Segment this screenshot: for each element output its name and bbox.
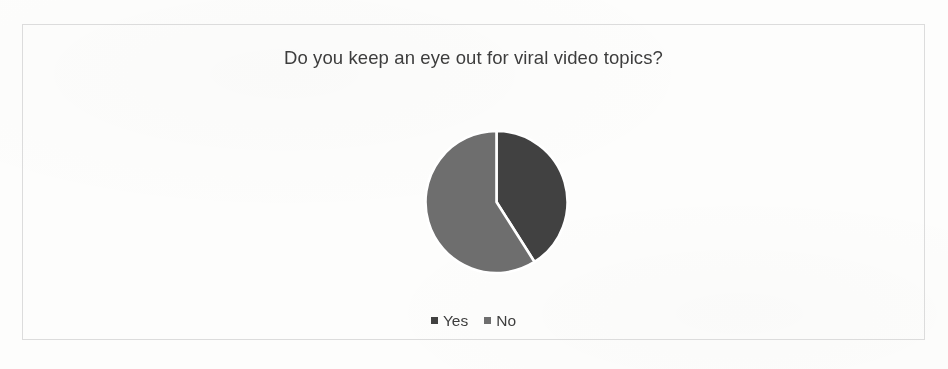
legend-swatch-no-icon [484,317,491,324]
pie-chart-plot-area [403,107,591,297]
legend-swatch-yes-icon [431,317,438,324]
chart-legend: Yes No [23,313,924,329]
legend-entry-no[interactable]: No [484,313,516,329]
pie-chart-svg [403,107,591,297]
legend-label-yes: Yes [443,313,468,329]
chart-frame: Do you keep an eye out for viral video t… [22,24,925,340]
legend-label-no: No [496,313,516,329]
chart-title: Do you keep an eye out for viral video t… [23,47,924,69]
pie-slice-group [426,131,568,273]
legend-entry-yes[interactable]: Yes [431,313,468,329]
